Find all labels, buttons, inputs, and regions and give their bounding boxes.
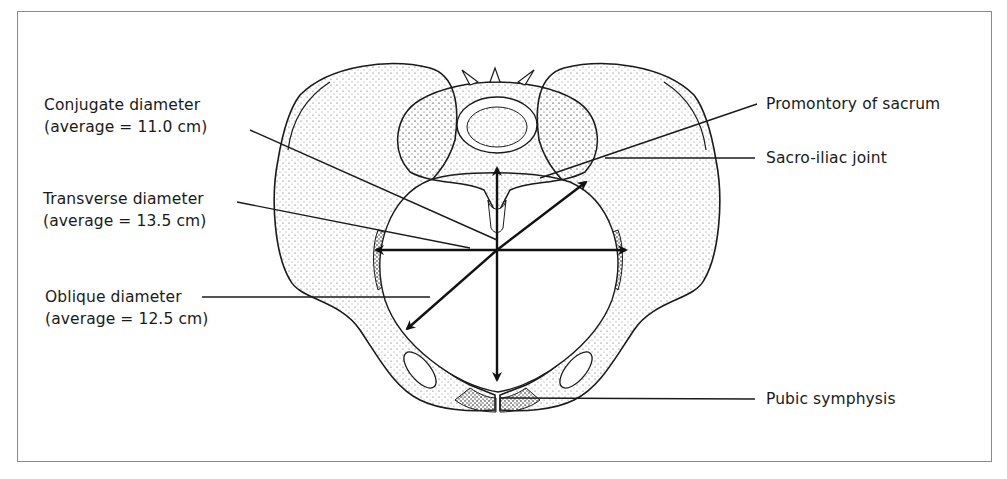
sacroiliac-title: Sacro-iliac joint [766,147,887,169]
label-oblique-diameter: Oblique diameter (average = 12.5 cm) [45,286,208,330]
transverse-title: Transverse diameter [43,188,206,210]
label-conjugate-diameter: Conjugate diameter (average = 11.0 cm) [44,94,207,138]
label-pubic-symphysis: Pubic symphysis [766,388,896,410]
label-transverse-diameter: Transverse diameter (average = 13.5 cm) [43,188,206,232]
oblique-title: Oblique diameter [45,286,208,308]
pubic-title: Pubic symphysis [766,388,896,410]
label-promontory-of-sacrum: Promontory of sacrum [766,93,940,115]
promontory-title: Promontory of sacrum [766,93,940,115]
transverse-detail: (average = 13.5 cm) [43,210,206,232]
label-sacro-iliac-joint: Sacro-iliac joint [766,147,887,169]
conjugate-detail: (average = 11.0 cm) [44,116,207,138]
oblique-detail: (average = 12.5 cm) [45,308,208,330]
conjugate-title: Conjugate diameter [44,94,207,116]
